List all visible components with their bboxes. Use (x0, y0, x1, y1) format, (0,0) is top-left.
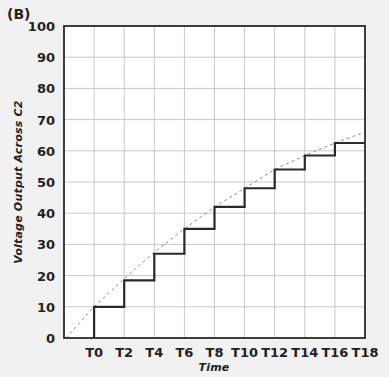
x-tick-label: T18 (352, 345, 379, 360)
x-axis-ticks: T0T2T4T6T8T10T12T14T16T18 (85, 345, 378, 360)
y-tick-label: 90 (37, 50, 55, 65)
x-tick-label: T16 (321, 345, 348, 360)
y-tick-label: 100 (28, 19, 55, 34)
y-tick-label: 30 (37, 237, 55, 252)
x-tick-label: T10 (231, 345, 258, 360)
x-tick-label: T0 (85, 345, 103, 360)
y-tick-label: 40 (37, 206, 55, 221)
x-tick-label: T6 (175, 345, 193, 360)
y-tick-label: 0 (46, 331, 55, 346)
y-tick-label: 10 (37, 300, 55, 315)
x-tick-label: T8 (206, 345, 224, 360)
x-tick-label: T14 (291, 345, 318, 360)
y-tick-label: 80 (37, 81, 55, 96)
y-tick-label: 20 (37, 269, 55, 284)
y-tick-label: 50 (37, 175, 55, 190)
y-axis-ticks: 0102030405060708090100 (28, 19, 55, 346)
y-axis-title: Voltage Output Across C2 (12, 100, 25, 263)
x-axis-title: Time (199, 361, 230, 374)
y-tick-label: 60 (37, 144, 55, 159)
y-tick-label: 70 (37, 113, 55, 128)
x-tick-label: T4 (145, 345, 163, 360)
voltage-step-chart: 0102030405060708090100 T0T2T4T6T8T10T12T… (0, 0, 389, 377)
x-tick-label: T2 (115, 345, 133, 360)
x-tick-label: T12 (261, 345, 288, 360)
